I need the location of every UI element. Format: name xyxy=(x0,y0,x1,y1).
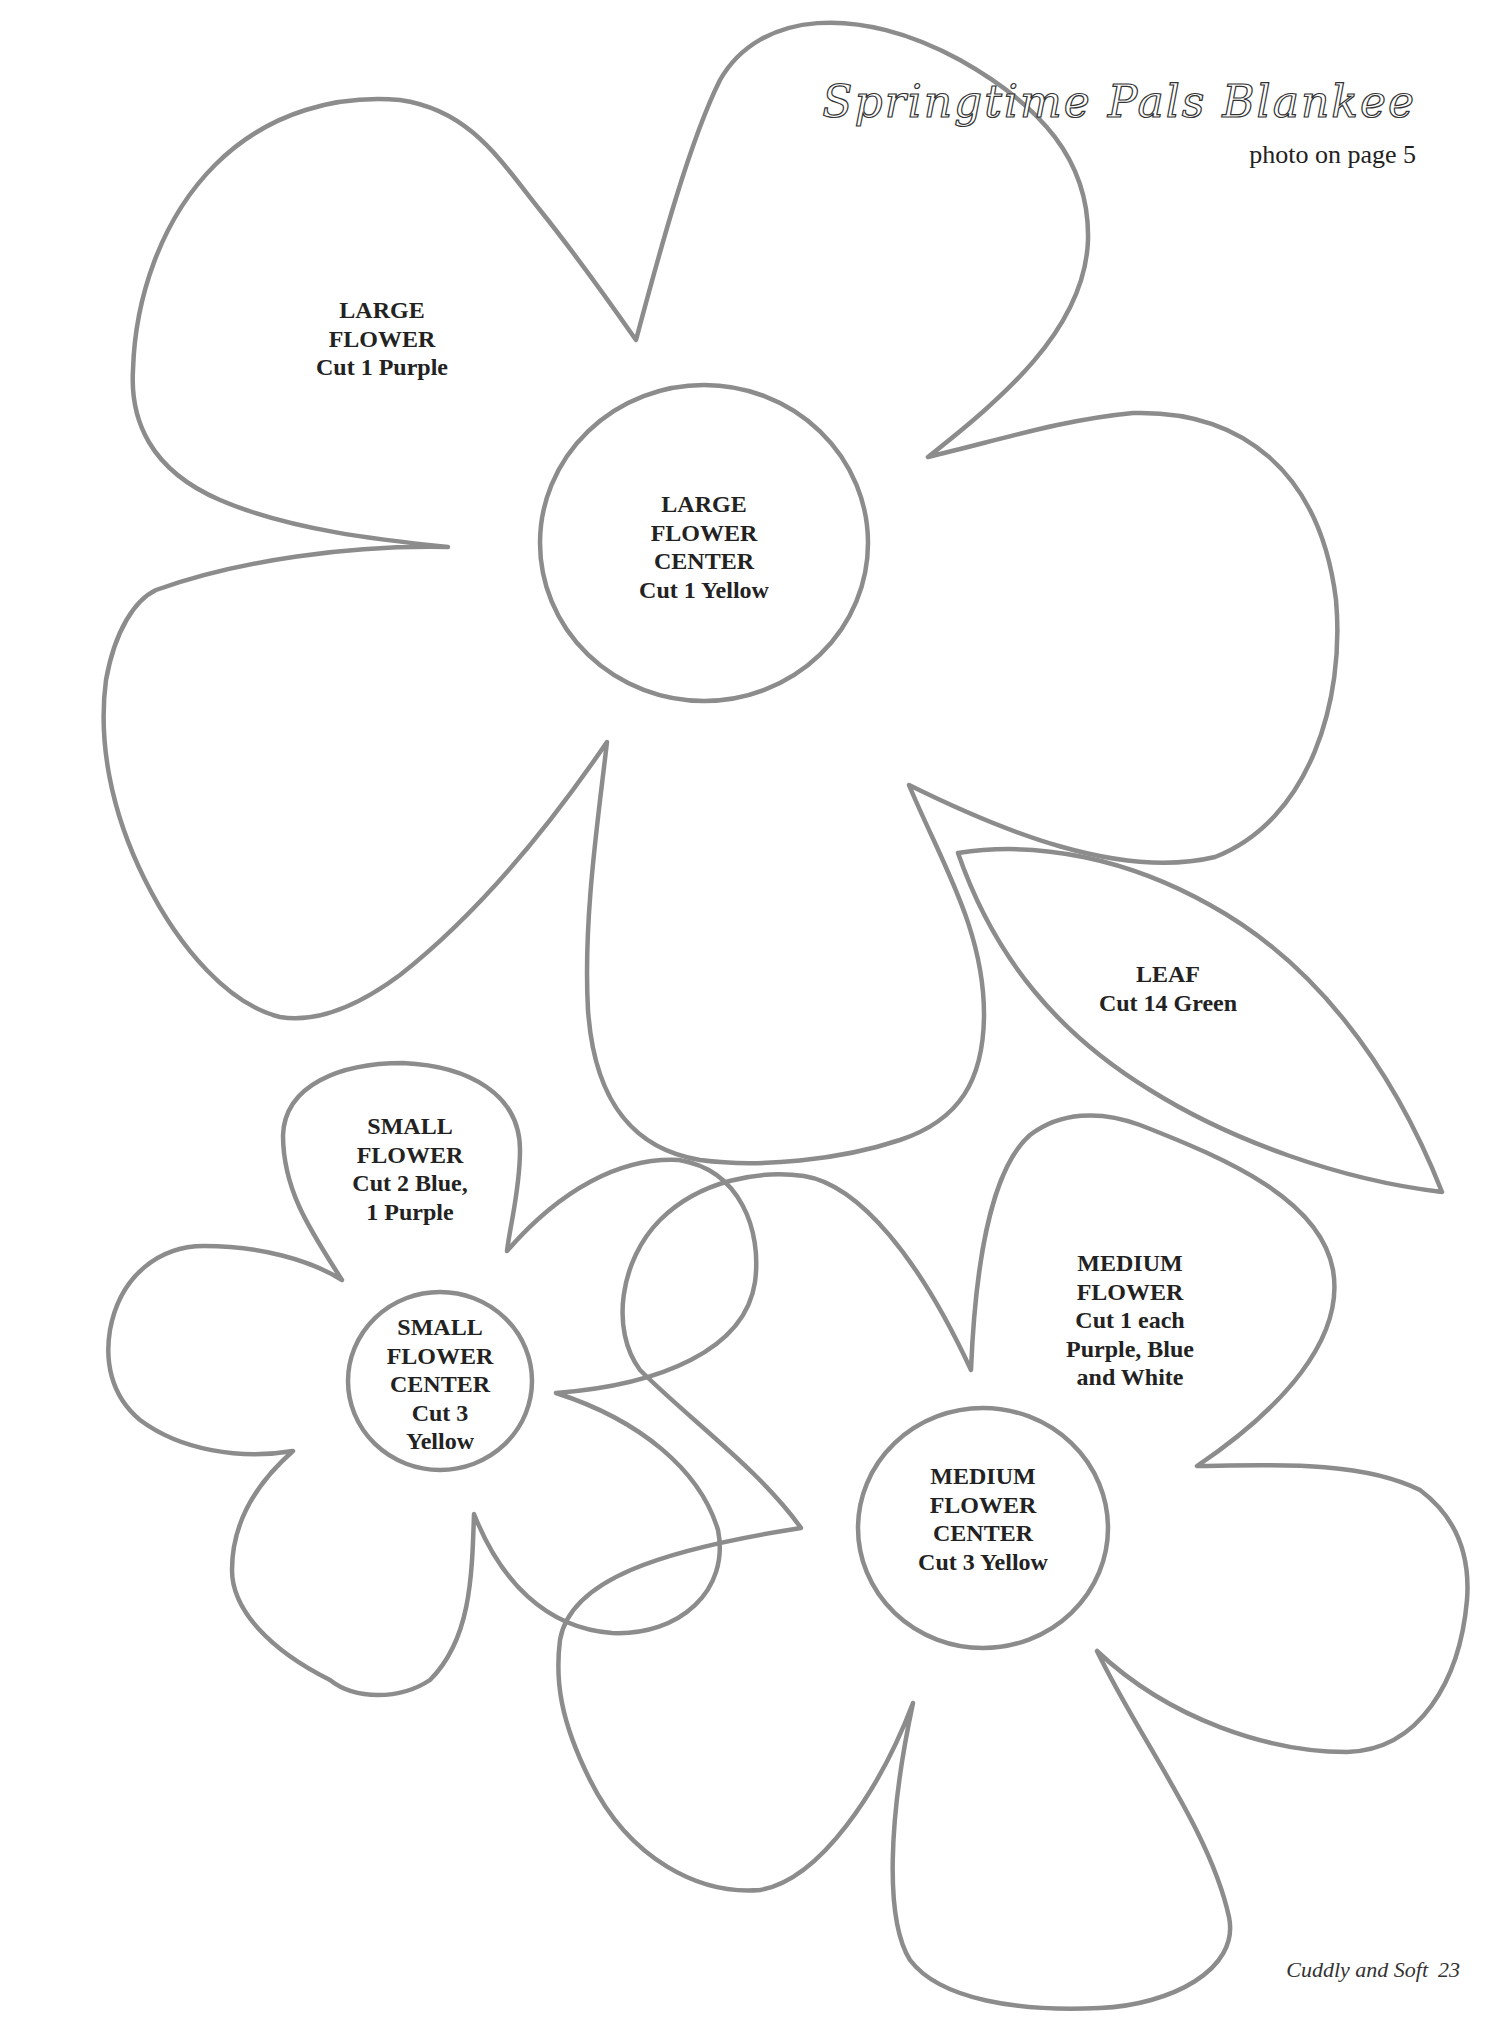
large-flower-center-label: LARGE FLOWER CENTER Cut 1 Yellow xyxy=(639,490,769,604)
page-title: Springtime Pals Blankee xyxy=(822,76,1416,127)
pattern-outlines xyxy=(0,0,1488,2037)
page-number: 23 xyxy=(1438,1957,1460,1982)
medium-flower-center-label: MEDIUM FLOWER CENTER Cut 3 Yellow xyxy=(918,1462,1048,1576)
pattern-page: Springtime Pals Blankee photo on page 5 … xyxy=(0,0,1488,2037)
small-flower-center-label: SMALL FLOWER CENTER Cut 3 Yellow xyxy=(387,1313,494,1456)
large-flower-label: LARGE FLOWER Cut 1 Purple xyxy=(316,296,448,382)
book-title: Cuddly and Soft xyxy=(1286,1957,1428,1982)
photo-reference: photo on page 5 xyxy=(1249,140,1416,170)
page-footer: Cuddly and Soft23 xyxy=(1286,1957,1460,1983)
medium-flower-label: MEDIUM FLOWER Cut 1 each Purple, Blue an… xyxy=(1066,1249,1194,1392)
small-flower-label: SMALL FLOWER Cut 2 Blue, 1 Purple xyxy=(352,1112,467,1226)
leaf-label: LEAF Cut 14 Green xyxy=(1099,960,1237,1017)
leaf-outline xyxy=(958,849,1442,1192)
